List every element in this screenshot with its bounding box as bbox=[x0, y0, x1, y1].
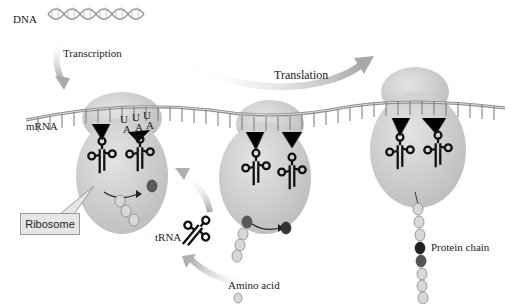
protein-chain-label: Protein chain bbox=[431, 242, 489, 253]
trna-return-arrow-icon bbox=[175, 168, 210, 212]
ribosome-3 bbox=[370, 67, 466, 208]
free-amino-acid-icon bbox=[234, 293, 242, 303]
translation-label: Translation bbox=[274, 69, 328, 81]
ribosome-label: Ribosome bbox=[25, 218, 75, 230]
trna-label: tRNA bbox=[155, 232, 181, 243]
transcription-arrow-icon bbox=[55, 38, 70, 90]
amino-acid-label: Amino acid bbox=[228, 280, 280, 291]
mrna-label: mRNA bbox=[26, 121, 58, 132]
translation-diagram: DNA Transcription Translation mRNA U U U… bbox=[0, 0, 513, 304]
ribosome-2 bbox=[219, 100, 311, 234]
dna-helix-icon bbox=[48, 7, 144, 21]
diagram-canvas bbox=[0, 0, 513, 304]
anticodon-a-3: A bbox=[146, 120, 154, 131]
ribosome-callout: Ribosome bbox=[20, 213, 80, 235]
transcription-label: Transcription bbox=[63, 48, 122, 59]
anticodon-a-1: A bbox=[123, 124, 131, 135]
dna-label: DNA bbox=[13, 14, 37, 25]
anticodon-a-2: A bbox=[135, 122, 143, 133]
